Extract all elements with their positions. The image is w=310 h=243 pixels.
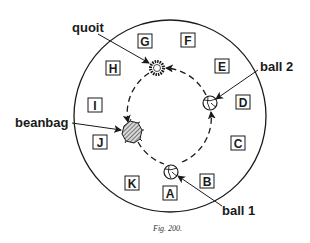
beanbag-icon: [122, 119, 144, 143]
station-letter: K: [128, 177, 137, 191]
ball-1-label: ball 1: [222, 203, 255, 218]
ball-2-label: ball 2: [260, 59, 293, 74]
dashed-path: [127, 68, 211, 164]
station-letter: G: [140, 35, 149, 49]
station-g: G: [138, 34, 152, 49]
station-c: C: [231, 136, 245, 151]
figure-caption: Fig. 200.: [152, 224, 182, 233]
station-f: F: [181, 33, 195, 48]
diagram-figure: ABCDEFGHIJK quoit ball: [0, 0, 310, 243]
quoit-label: quoit: [72, 20, 104, 35]
station-letter: F: [184, 34, 191, 48]
ball-2-icon: [203, 96, 217, 110]
station-letter: B: [203, 175, 212, 189]
station-letter: E: [218, 60, 226, 74]
station-letter: C: [234, 137, 243, 151]
station-letter: A: [166, 187, 175, 201]
station-k: K: [125, 176, 139, 191]
station-letter: I: [93, 99, 96, 113]
station-e: E: [215, 59, 229, 74]
station-letter: D: [239, 96, 248, 110]
station-d: D: [236, 95, 250, 110]
station-j: J: [93, 135, 107, 150]
quoit-icon: [151, 62, 164, 75]
leader-lines: [72, 34, 258, 206]
ball-1-icon: [164, 165, 178, 179]
station-letter: H: [109, 62, 118, 76]
outer-circle: [74, 20, 266, 212]
station-a: A: [163, 186, 177, 201]
station-letter: J: [97, 136, 104, 150]
station-b: B: [200, 174, 214, 189]
station-h: H: [106, 61, 120, 76]
beanbag-label: beanbag: [15, 115, 69, 130]
station-i: I: [88, 98, 102, 113]
